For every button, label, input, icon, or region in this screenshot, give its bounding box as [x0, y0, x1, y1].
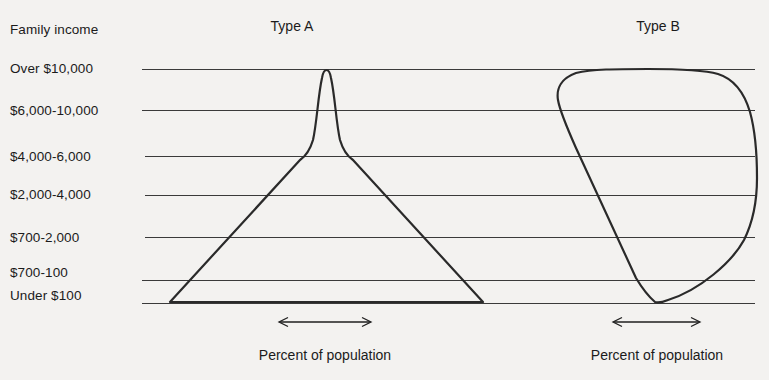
figure-root: Family income Over $10,000 $6,000-10,000…: [0, 0, 769, 380]
width-arrow-type-a: [279, 318, 371, 327]
chart-canvas: [0, 0, 769, 380]
distribution-curve-type-a: [170, 70, 483, 302]
gridlines: [142, 70, 755, 304]
distribution-curve-type-b: [558, 69, 757, 302]
width-arrow-type-b: [613, 318, 700, 327]
